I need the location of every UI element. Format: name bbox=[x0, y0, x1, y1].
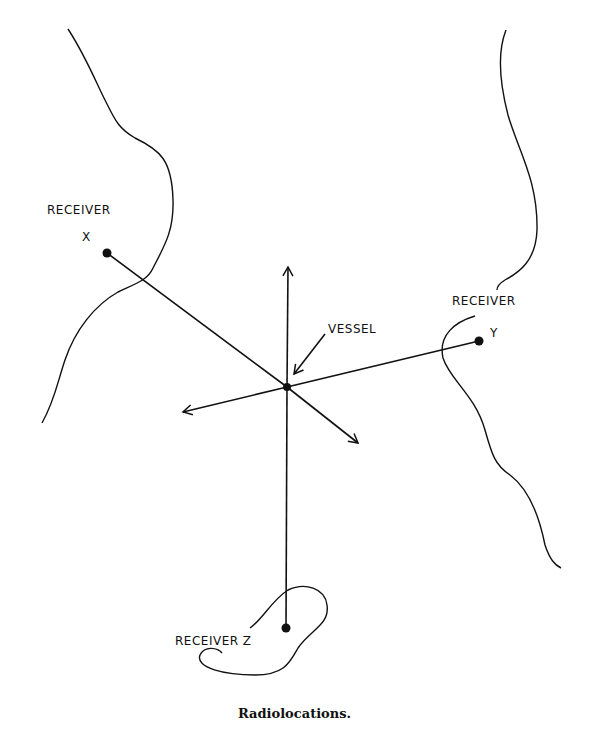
receiver-x-letter: X bbox=[82, 230, 91, 244]
figure-caption: Radiolocations. bbox=[0, 706, 589, 721]
vessel-label: VESSEL bbox=[328, 322, 376, 336]
left-coastline bbox=[42, 29, 173, 423]
receiver-y-label: RECEIVER bbox=[452, 294, 516, 308]
bearing-line-y bbox=[287, 341, 479, 387]
arrow-southeast bbox=[287, 387, 358, 443]
vessel-dot bbox=[283, 383, 291, 391]
receiver-z-dot bbox=[282, 624, 291, 633]
receiver-x-dot bbox=[103, 249, 112, 258]
receiver-y-dot bbox=[475, 337, 484, 346]
right-coastline-top bbox=[497, 30, 537, 290]
radiolocation-diagram: RECEIVER X RECEIVER Y RECEIVER Z VESSEL bbox=[0, 0, 589, 746]
receiver-y-letter: Y bbox=[489, 326, 498, 340]
arrow-west bbox=[183, 387, 287, 412]
receiver-x-label: RECEIVER bbox=[47, 203, 111, 217]
receiver-z-island bbox=[199, 586, 327, 675]
bearing-line-x bbox=[107, 253, 287, 387]
arrow-north bbox=[287, 267, 288, 387]
receiver-z-label: RECEIVER Z bbox=[175, 634, 252, 648]
right-coastline-lower bbox=[442, 316, 561, 568]
bearing-line-z bbox=[286, 387, 287, 628]
vessel-pointer-arrow bbox=[294, 334, 325, 374]
